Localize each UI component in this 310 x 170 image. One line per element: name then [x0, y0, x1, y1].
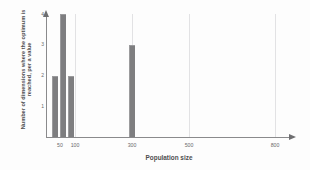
y-tick-2: 2 [32, 72, 44, 78]
y-axis-title: Number of dimensions where the optimum i… [20, 5, 33, 133]
bar-20 [52, 76, 58, 138]
x-tick-100: 100 [60, 142, 90, 148]
x-axis-arrow-icon [289, 134, 296, 140]
x-axis-title: Population size [46, 154, 292, 162]
x-tick-500: 500 [174, 142, 204, 148]
gridline-500 [189, 14, 190, 137]
x-tick-800: 800 [260, 142, 290, 148]
bar-300 [129, 45, 135, 137]
bar-30 [60, 14, 66, 137]
plot-area [46, 14, 292, 137]
x-tick-300: 300 [117, 142, 147, 148]
x-axis-line [46, 137, 290, 138]
bar-40 [68, 76, 74, 138]
y-axis-line [46, 16, 47, 137]
gridline-800 [275, 14, 276, 137]
y-tick-1: 1 [32, 103, 44, 109]
gridline-100 [75, 14, 76, 137]
y-tick-3: 3 [32, 41, 44, 47]
y-tick-4: 4 [32, 11, 44, 17]
bar-chart: 1 2 3 4 50 100 300 500 800 Population si… [0, 0, 310, 170]
